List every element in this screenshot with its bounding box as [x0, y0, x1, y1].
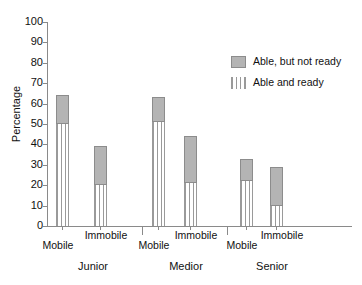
group-label-medior: Medior	[156, 260, 216, 272]
y-axis-tick-label: 30	[21, 159, 43, 170]
legend-label: Able and ready	[253, 77, 324, 88]
y-axis-tick-label: 60	[21, 98, 43, 109]
y-axis-tick-label-wrap: 80	[0, 57, 43, 68]
bar-segment-able-and-ready	[94, 185, 107, 226]
bar-segment-able-and-ready	[152, 122, 165, 226]
group-label-senior: Senior	[242, 260, 302, 272]
y-axis-tick-label-wrap: 20	[0, 179, 43, 190]
bar-segment-able-but-not-ready	[56, 95, 69, 124]
bar-segment-able-but-not-ready	[94, 146, 107, 185]
chart-legend: Able, but not ready Able and ready	[231, 53, 341, 95]
legend-item-able-but-not-ready: Able, but not ready	[231, 53, 341, 70]
y-axis-tick-label: 10	[21, 200, 43, 211]
bar-segment-able-and-ready	[184, 183, 197, 226]
y-axis-tick	[43, 185, 48, 186]
legend-label: Able, but not ready	[253, 56, 341, 67]
bar-medior-immobile	[184, 136, 197, 226]
x-axis-label: Immobile	[172, 230, 220, 241]
y-axis-tick-label: 100	[21, 16, 43, 27]
bar-medior-mobile	[152, 97, 165, 226]
y-axis-tick	[43, 165, 48, 166]
y-axis-tick	[43, 22, 48, 23]
x-axis-label: Mobile	[134, 240, 174, 251]
y-axis-tick-label-wrap: 60	[0, 98, 43, 109]
group-separator	[227, 226, 228, 235]
x-axis-label: Mobile	[222, 240, 262, 251]
y-axis-tick	[43, 124, 48, 125]
y-axis-tick	[43, 42, 48, 43]
y-axis-tick-label: 50	[21, 118, 43, 129]
y-axis-tick-label-wrap: 40	[0, 138, 43, 149]
y-axis-tick-label: 70	[21, 77, 43, 88]
bar-chart: Percentage 0102030405060708090100 Mobile…	[0, 0, 362, 285]
x-axis-tick	[246, 226, 247, 230]
y-axis-tick-label-wrap: 100	[0, 16, 43, 27]
y-axis-tick	[43, 83, 48, 84]
bar-segment-able-but-not-ready	[240, 159, 253, 181]
x-axis-label: Immobile	[258, 230, 306, 241]
y-axis-tick-label-wrap: 30	[0, 159, 43, 170]
bar-segment-able-but-not-ready	[184, 136, 197, 183]
y-axis-tick-label: 40	[21, 138, 43, 149]
y-axis-tick-label-wrap: 0	[0, 220, 43, 231]
legend-item-able-and-ready: Able and ready	[231, 74, 341, 91]
bar-segment-able-and-ready	[270, 206, 283, 226]
bar-junior-immobile	[94, 146, 107, 226]
y-axis-tick	[43, 206, 48, 207]
x-axis-label: Mobile	[38, 240, 78, 251]
legend-swatch-solid-icon	[231, 56, 246, 68]
y-axis-tick	[43, 63, 48, 64]
bar-segment-able-and-ready	[56, 124, 69, 226]
y-axis-tick-label-wrap: 90	[0, 36, 43, 47]
bar-senior-mobile	[240, 159, 253, 226]
y-axis-tick	[43, 104, 48, 105]
group-label-junior: Junior	[63, 260, 123, 272]
bar-segment-able-but-not-ready	[270, 167, 283, 206]
bar-junior-mobile	[56, 95, 69, 226]
x-axis-tick	[62, 226, 63, 230]
y-axis-tick	[43, 144, 48, 145]
x-axis-label: Immobile	[82, 230, 130, 241]
bar-segment-able-and-ready	[240, 181, 253, 226]
legend-swatch-striped-icon	[231, 77, 246, 89]
bar-segment-able-but-not-ready	[152, 97, 165, 121]
y-axis-tick-label: 90	[21, 36, 43, 47]
x-axis-line	[47, 226, 352, 227]
group-separator	[142, 226, 143, 235]
x-axis-tick	[158, 226, 159, 230]
y-axis-tick-label-wrap: 50	[0, 118, 43, 129]
y-axis-tick-label: 20	[21, 179, 43, 190]
y-axis-tick-label: 0	[21, 220, 43, 231]
y-axis-tick-label-wrap: 70	[0, 77, 43, 88]
bar-senior-immobile	[270, 167, 283, 226]
y-axis-tick-label: 80	[21, 57, 43, 68]
y-axis-tick-label-wrap: 10	[0, 200, 43, 211]
